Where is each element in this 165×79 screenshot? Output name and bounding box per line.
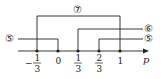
tick-label-zero: 0 xyxy=(56,56,62,66)
svg-text:2: 2 xyxy=(97,53,103,63)
svg-text:3: 3 xyxy=(97,64,103,74)
range-5-right-label: ⑤ xyxy=(144,33,153,44)
tick-dot-one xyxy=(118,49,121,52)
number-line-diagram: p ⑦ ⑥ ⑤ ⑤ − 1 3 0 1 3 2 3 1 xyxy=(0,0,165,79)
svg-text:3: 3 xyxy=(35,64,41,74)
svg-text:1: 1 xyxy=(76,53,82,63)
axis-arrow-icon xyxy=(143,49,149,54)
range-7-bracket xyxy=(37,16,120,51)
tick-label-two-thirds: 2 3 xyxy=(95,53,103,74)
range-5-left-label: ⑤ xyxy=(5,33,14,44)
svg-text:−: − xyxy=(25,58,33,68)
axis-variable-label: p xyxy=(143,54,150,65)
tick-label-neg-one-third: − 1 3 xyxy=(25,53,41,74)
range-7-label: ⑦ xyxy=(73,4,82,15)
tick-label-one: 1 xyxy=(118,56,124,66)
svg-text:1: 1 xyxy=(35,53,41,63)
tick-label-one-third: 1 3 xyxy=(74,53,82,74)
range-5-right-bracket xyxy=(99,39,143,51)
range-5-left-bracket xyxy=(18,39,58,51)
range-6-bracket xyxy=(78,29,143,51)
svg-text:3: 3 xyxy=(76,64,82,74)
tick-dot-zero xyxy=(56,49,59,52)
